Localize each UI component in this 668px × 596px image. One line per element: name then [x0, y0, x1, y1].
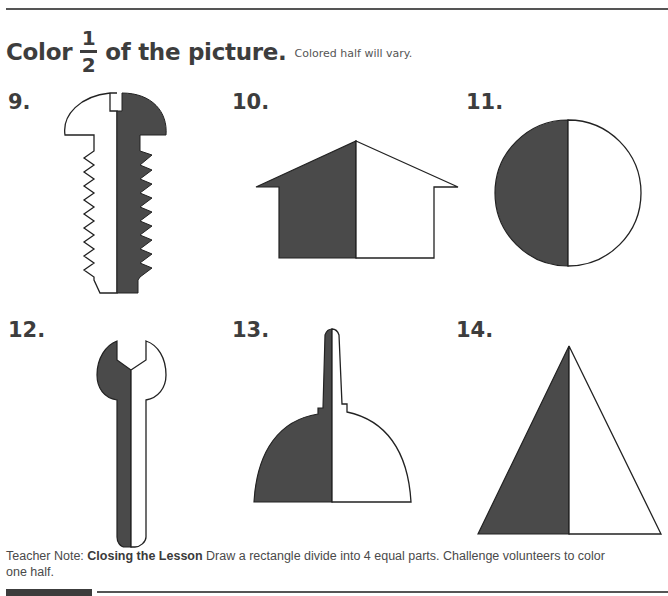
teacher-note-label: Teacher Note: — [6, 549, 84, 563]
bell-left-half-shaded[interactable] — [254, 329, 332, 502]
circle-left-half-shaded[interactable] — [495, 120, 568, 266]
teacher-note-title: Closing the Lesson — [87, 549, 202, 563]
screw-left-half[interactable] — [65, 93, 117, 293]
wrench-right-half[interactable] — [131, 341, 166, 547]
fraction-numerator: 1 — [82, 28, 96, 48]
triangle-left-half-shaded[interactable] — [478, 346, 569, 534]
triangle-right-half[interactable] — [569, 346, 661, 534]
heading-suffix: of the picture. — [105, 39, 286, 65]
problem-number-12: 12. — [8, 318, 45, 342]
top-divider — [6, 8, 668, 10]
teacher-note: Teacher Note: Closing the Lesson Draw a … — [6, 548, 606, 580]
triangle-figure[interactable] — [475, 343, 665, 538]
problem-number-11: 11. — [466, 90, 503, 114]
problem-number-10: 10. — [232, 90, 269, 114]
wrench-left-half-shaded[interactable] — [97, 341, 131, 547]
house-left-half-shaded[interactable] — [256, 141, 356, 258]
instruction-heading: Color 1 2 of the picture. Colored half w… — [6, 28, 412, 75]
wrench-figure[interactable] — [90, 320, 180, 550]
bell-figure[interactable] — [250, 325, 420, 505]
problem-number-9: 9. — [8, 90, 31, 114]
fraction-one-half: 1 2 — [80, 28, 97, 75]
fraction-denominator: 2 — [82, 55, 96, 75]
house-right-half[interactable] — [356, 141, 458, 258]
footer-block — [6, 589, 92, 596]
house-figure[interactable] — [250, 135, 465, 265]
heading-prefix: Color — [6, 39, 72, 65]
circle-right-half[interactable] — [568, 120, 641, 266]
problem-number-14: 14. — [456, 318, 493, 342]
screw-right-half-shaded[interactable] — [117, 93, 166, 293]
footer-divider — [97, 591, 668, 593]
circle-figure[interactable] — [490, 115, 650, 275]
answer-note: Colored half will vary. — [295, 47, 413, 60]
screw-figure[interactable] — [40, 90, 190, 300]
bell-right-half[interactable] — [332, 329, 411, 502]
